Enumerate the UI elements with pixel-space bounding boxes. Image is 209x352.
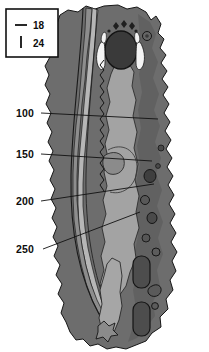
callout-label-150: 150: [16, 148, 34, 160]
lower-chamber-upper: [133, 256, 150, 288]
nodule-a: [144, 170, 156, 183]
nodule-c: [147, 213, 157, 224]
lower-chamber-lower: [133, 302, 150, 336]
legend-label-18: 18: [33, 20, 45, 31]
legend-label-24: 24: [33, 38, 45, 49]
cross-section-figure: 100 150 200 250 18 24: [0, 0, 209, 352]
mid-inner-fold: [103, 153, 124, 175]
upper-cavity: [105, 31, 137, 69]
lower-blob: [148, 285, 161, 297]
right-edge-nodule-a: [158, 145, 164, 151]
legend-box: [6, 9, 58, 57]
callout-label-100: 100: [16, 107, 34, 119]
lower-small-ring-a: [152, 248, 160, 256]
scale-legend: 18 24: [6, 9, 58, 57]
callout-label-250: 250: [16, 243, 34, 255]
specimen-illustration: [45, 5, 177, 349]
upper-right-ring-core: [145, 34, 149, 38]
figure-root: 100 150 200 250 18 24: [0, 0, 209, 352]
lower-small-ring-b: [152, 303, 159, 310]
nodule-d: [142, 234, 150, 242]
nodule-b: [141, 196, 150, 205]
callout-label-200: 200: [16, 195, 34, 207]
right-edge-nodule-b: [156, 164, 161, 169]
